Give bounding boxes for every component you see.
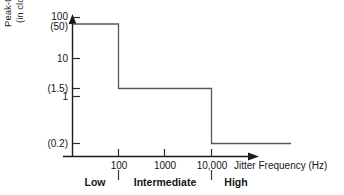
jitter-mask-step-curve bbox=[73, 24, 291, 144]
chart-figure: Peak-to-peak Jitter (in clock periods) 1… bbox=[0, 0, 344, 195]
region-label-low: Low bbox=[74, 177, 116, 188]
x-tick-marks bbox=[119, 149, 212, 156]
y-tick-label-0p2: (0.2) bbox=[22, 138, 68, 149]
y-tick-label-50: (50) bbox=[22, 21, 68, 32]
region-label-intermediate: Intermediate bbox=[127, 177, 203, 188]
y-tick-marks bbox=[73, 18, 81, 144]
y-tick-label-1: 1 bbox=[22, 91, 68, 102]
x-axis-title: Jitter Frequency (Hz) bbox=[234, 160, 327, 171]
y-tick-label-10: 10 bbox=[22, 53, 68, 64]
x-tick-label-100: 100 bbox=[104, 160, 134, 171]
region-label-high: High bbox=[216, 177, 256, 188]
x-tick-label-1000: 1000 bbox=[149, 160, 181, 171]
y-axis-arrowhead bbox=[69, 14, 77, 24]
x-tick-label-10000: 10,000 bbox=[191, 160, 233, 171]
y-axis-title-line-1: Peak-to-peak Jitter bbox=[2, 0, 14, 52]
